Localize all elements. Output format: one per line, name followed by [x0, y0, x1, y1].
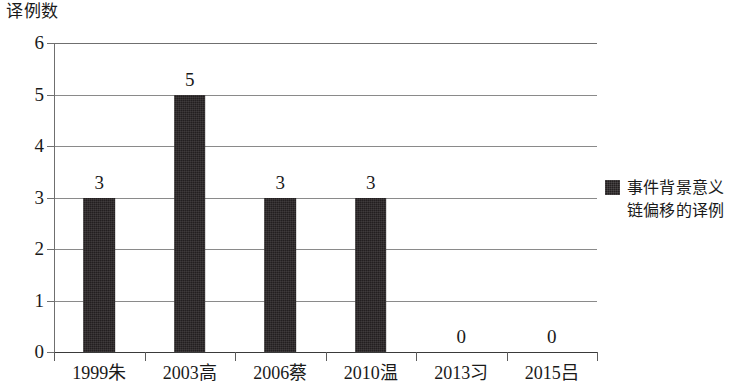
y-axis-tick [47, 146, 54, 147]
x-axis-tick-label: 2013习 [416, 361, 507, 385]
y-axis-tick [47, 352, 54, 353]
chart-legend: 事件背景意义链偏移的译例 [605, 176, 745, 222]
bar-chart-figure: 译例数 0123456 353300 1999朱2003高2006蔡2010温2… [0, 0, 747, 386]
x-axis-tick-label: 2010温 [326, 361, 417, 385]
bar-value-label: 0 [416, 327, 507, 346]
bar-value-label: 3 [235, 173, 326, 192]
x-axis-tick-label: 2015吕 [507, 361, 598, 385]
bar-value-label: 3 [54, 173, 145, 192]
bar-value-label: 5 [145, 70, 236, 89]
bar-slot: 5 [145, 43, 236, 352]
y-axis-tick-label: 0 [8, 342, 44, 361]
x-axis-tick-labels: 1999朱2003高2006蔡2010温2013习2015吕 [54, 361, 598, 386]
x-axis-tick-label: 2003高 [145, 361, 236, 385]
x-axis-tick [235, 352, 236, 361]
bar-value-label: 3 [326, 173, 417, 192]
bar-slot: 3 [54, 43, 145, 352]
bar-slot: 0 [416, 43, 507, 352]
y-axis-tick [47, 198, 54, 199]
plot-area: 353300 [54, 43, 597, 352]
y-axis-tick [47, 95, 54, 96]
x-axis-tick-label: 1999朱 [54, 361, 145, 385]
bar [355, 198, 387, 353]
y-axis-tick-label: 3 [8, 188, 44, 207]
y-axis-line [54, 43, 55, 353]
y-axis-tick-label: 4 [8, 136, 44, 155]
y-axis-tick [47, 301, 54, 302]
y-axis-tick-label: 1 [8, 291, 44, 310]
x-axis-tick [597, 352, 598, 361]
y-axis-tick [47, 43, 54, 44]
y-axis-tick-label: 2 [8, 239, 44, 258]
x-axis-tick [416, 352, 417, 361]
bar [83, 198, 115, 353]
x-axis-tick-label: 2006蔡 [235, 361, 326, 385]
y-axis-tick-label: 6 [8, 33, 44, 52]
bar-slot: 3 [235, 43, 326, 352]
x-axis-tick [326, 352, 327, 361]
bar [174, 95, 206, 353]
x-axis-tick [145, 352, 146, 361]
bar-slot: 3 [326, 43, 417, 352]
x-axis-tick [507, 352, 508, 361]
bar [264, 198, 296, 353]
y-axis-tick-label: 5 [8, 85, 44, 104]
bar-slot: 0 [507, 43, 598, 352]
x-axis-tick [54, 352, 55, 361]
legend-series-label: 事件背景意义链偏移的译例 [627, 176, 731, 222]
bar-value-label: 0 [507, 327, 598, 346]
legend-color-swatch [605, 180, 620, 195]
y-axis-tick [47, 249, 54, 250]
